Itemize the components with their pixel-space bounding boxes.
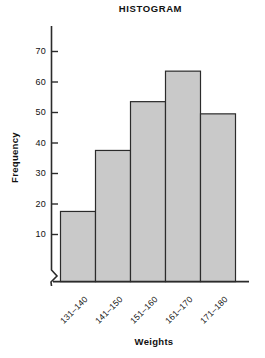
x-tick-label-171-180: 171–180 [199,295,230,326]
x-tick-label-131-140: 131–140 [59,295,90,326]
x-tick-label-151-160: 151–160 [129,295,160,326]
x-tick-label-141-150: 141–150 [94,295,125,326]
histogram-chart: HISTOGRAM 70 60 50 [0,0,265,358]
x-axis-title: Weights [60,336,248,347]
x-tick-label-161-170: 161–170 [164,295,195,326]
x-axis-tick-labels: 131–140 141–150 151–160 161–170 171–180 [0,0,265,358]
